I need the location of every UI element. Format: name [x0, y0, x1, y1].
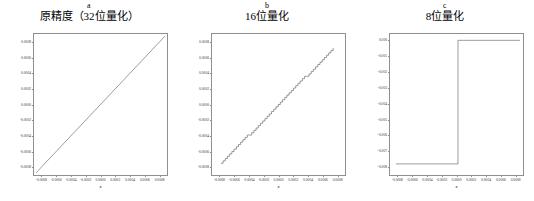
- x-tick-label: 0.0000: [96, 178, 106, 182]
- y-tick-mark: [388, 88, 390, 89]
- y-tick-mark: [32, 167, 34, 168]
- x-tick-label: 0.0006: [140, 178, 150, 182]
- panel-b-letter: b: [178, 1, 356, 10]
- y-tick-label: -0.0004: [198, 134, 209, 138]
- x-tick-label: 0.0000: [274, 178, 284, 182]
- y-tick-mark: [210, 120, 212, 121]
- y-tick-mark: [210, 152, 212, 153]
- y-tick-mark: [388, 104, 390, 105]
- panel-b-title: 16位量化: [178, 10, 356, 23]
- panel-c-data-line: [396, 40, 520, 164]
- x-tick-label: 0.0004: [125, 178, 135, 182]
- panel-b-line-svg: [212, 34, 345, 175]
- x-tick-label: 0.0000: [452, 178, 462, 182]
- x-tick-label: 0.0008: [333, 178, 343, 182]
- x-tick-mark: [86, 175, 87, 177]
- y-tick-label: -0.0006: [198, 150, 209, 154]
- y-tick-label: 0.0000: [21, 103, 31, 107]
- y-tick-mark: [32, 120, 34, 121]
- x-tick-label: -0.0002: [436, 178, 447, 182]
- x-tick-label: -0.0006: [407, 178, 418, 182]
- y-tick-label: 0.0008: [199, 40, 209, 44]
- x-tick-label: -0.0004: [65, 178, 76, 182]
- panel-a-data-line: [36, 36, 165, 173]
- y-tick-mark: [32, 89, 34, 90]
- x-tick-mark: [293, 175, 294, 177]
- panel-c-xlabel: x: [390, 184, 523, 189]
- y-tick-mark: [388, 56, 390, 57]
- y-tick-mark: [210, 105, 212, 106]
- x-tick-mark: [501, 175, 502, 177]
- x-tick-label: 0.0008: [511, 178, 521, 182]
- y-tick-label: 0.0008: [21, 40, 31, 44]
- panel-a-plot-area: x -0.0008-0.0006-0.0004-0.00020.00000.00…: [33, 33, 168, 176]
- x-tick-mark: [397, 175, 398, 177]
- x-tick-mark: [338, 175, 339, 177]
- figure-container: a 原精度（32位量化） x -0.0008-0.0006-0.0004-0.0…: [0, 0, 534, 201]
- y-tick-mark: [388, 151, 390, 152]
- x-tick-mark: [56, 175, 57, 177]
- y-tick-mark: [210, 73, 212, 74]
- y-tick-mark: [388, 167, 390, 168]
- y-tick-label: -0.003: [378, 86, 387, 90]
- y-tick-label: -0.0008: [198, 165, 209, 169]
- x-tick-label: 0.0002: [466, 178, 476, 182]
- x-tick-label: 0.0002: [110, 178, 120, 182]
- x-tick-label: -0.0008: [36, 178, 47, 182]
- panel-b: b 16位量化 x -0.0008-0.0006-0.0004-0.00020.…: [178, 0, 356, 201]
- panel-c-line-svg: [390, 34, 523, 175]
- x-tick-mark: [101, 175, 102, 177]
- panel-b-plot-area: x -0.0008-0.0006-0.0004-0.00020.00000.00…: [211, 33, 346, 176]
- y-tick-label: -0.0008: [20, 165, 31, 169]
- x-tick-label: -0.0008: [392, 178, 403, 182]
- x-tick-label: -0.0002: [258, 178, 269, 182]
- x-tick-mark: [457, 175, 458, 177]
- y-tick-label: 0.0006: [21, 56, 31, 60]
- x-tick-mark: [130, 175, 131, 177]
- x-tick-mark: [249, 175, 250, 177]
- panel-a-letter: a: [0, 1, 178, 10]
- x-tick-mark: [323, 175, 324, 177]
- y-tick-label: -0.0006: [20, 150, 31, 154]
- panel-c-letter: c: [356, 1, 534, 10]
- y-tick-label: -0.0002: [20, 118, 31, 122]
- x-tick-label: 0.0002: [288, 178, 298, 182]
- y-tick-label: -0.006: [378, 133, 387, 137]
- x-tick-label: -0.0004: [421, 178, 432, 182]
- x-tick-mark: [442, 175, 443, 177]
- x-tick-mark: [471, 175, 472, 177]
- x-tick-mark: [115, 175, 116, 177]
- x-tick-label: 0.0008: [155, 178, 165, 182]
- panel-c-title: 8位量化: [356, 10, 534, 23]
- x-tick-mark: [145, 175, 146, 177]
- x-tick-mark: [516, 175, 517, 177]
- y-tick-label: 0.0006: [199, 56, 209, 60]
- y-tick-mark: [32, 152, 34, 153]
- y-tick-mark: [32, 136, 34, 137]
- y-tick-label: 0.0002: [199, 87, 209, 91]
- x-tick-mark: [308, 175, 309, 177]
- y-tick-mark: [388, 120, 390, 121]
- y-tick-mark: [210, 58, 212, 59]
- panel-b-data-line: [221, 48, 333, 163]
- y-tick-label: 0.0004: [199, 71, 209, 75]
- panel-c: c 8位量化 x 0.000-0.001-0.002-0.003-0.004-0…: [356, 0, 534, 201]
- y-tick-mark: [210, 167, 212, 168]
- y-tick-mark: [210, 89, 212, 90]
- panel-c-plot-area: x 0.000-0.001-0.002-0.003-0.004-0.005-0.…: [389, 33, 524, 176]
- y-tick-label: -0.002: [378, 70, 387, 74]
- x-tick-label: -0.0004: [243, 178, 254, 182]
- y-tick-label: 0.0002: [21, 87, 31, 91]
- y-tick-label: 0.000: [379, 38, 387, 42]
- x-tick-mark: [160, 175, 161, 177]
- y-tick-label: -0.005: [378, 118, 387, 122]
- x-tick-label: -0.0002: [80, 178, 91, 182]
- x-tick-mark: [71, 175, 72, 177]
- y-tick-label: -0.0004: [20, 134, 31, 138]
- y-tick-mark: [32, 105, 34, 106]
- y-tick-mark: [210, 136, 212, 137]
- x-tick-label: 0.0006: [318, 178, 328, 182]
- panel-a-title: 原精度（32位量化）: [0, 10, 178, 23]
- y-tick-label: -0.0002: [198, 118, 209, 122]
- y-tick-mark: [388, 135, 390, 136]
